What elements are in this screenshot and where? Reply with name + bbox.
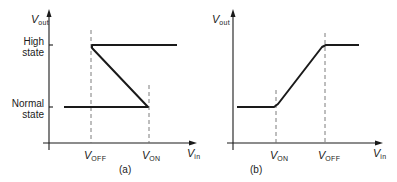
panel-b-y-axis-label: Vout (212, 14, 230, 28)
panel-b-transfer-curve (237, 45, 359, 107)
panel-a-x-axis-label: Vin (187, 148, 200, 162)
panel-a-x-arrow-icon (189, 141, 197, 146)
panel-b-x-arrow-icon (375, 141, 383, 146)
panel-a-axes (43, 14, 193, 150)
panel-a-caption: (a) (119, 164, 131, 175)
panel-a-v-off-label: VOFF (84, 150, 106, 164)
panel-a-normal-state-label: Normalstate (2, 98, 44, 120)
panel-a-dashed-markers (91, 30, 149, 143)
panel-a-transfer-curve (64, 45, 177, 107)
panel-a-v-on-label: VON (142, 150, 160, 164)
panel-b-v-off-label: VOFF (318, 150, 340, 164)
panel-a-high-state-label: Highstate (2, 36, 44, 58)
panel-b-axes (227, 14, 379, 150)
panel-b-x-axis-label: Vin (373, 148, 386, 162)
panel-b-dashed-markers (276, 33, 325, 143)
panel-b-y-arrow-icon (231, 9, 236, 17)
panel-a-y-axis-label: Vout (31, 14, 49, 28)
panel-b-caption: (b) (250, 164, 262, 175)
panel-b-v-on-label: VON (270, 150, 288, 164)
